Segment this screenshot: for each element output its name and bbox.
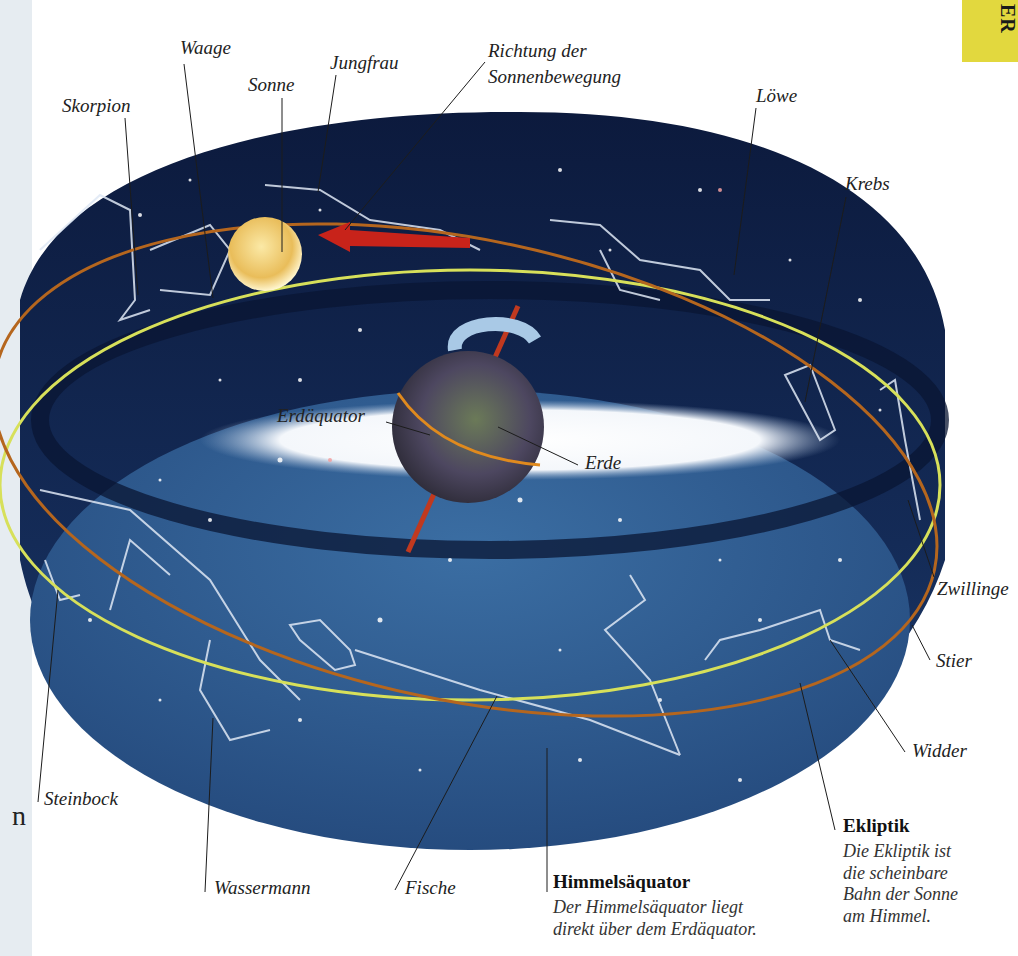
partial-text-left: n (12, 800, 26, 832)
caption-ekliptik-line2: die scheinbare (843, 863, 958, 885)
caption-ekliptik-title: Ekliptik (843, 815, 910, 837)
label-erde: Erde (585, 452, 621, 474)
label-erdaequator: Erdäquator (277, 405, 365, 427)
label-wassermann: Wassermann (214, 877, 310, 899)
caption-ekliptik-text: Die Ekliptik ist die scheinbare Bahn der… (843, 841, 958, 927)
caption-ekliptik-line3: Bahn der Sonne (843, 884, 958, 906)
label-widder: Widder (912, 740, 967, 762)
label-loewe: Löwe (756, 85, 797, 107)
label-sonne: Sonne (248, 74, 294, 96)
caption-himmelsaequator-line1: Der Himmelsäquator liegt (553, 897, 757, 919)
label-fische: Fische (405, 877, 456, 899)
caption-ekliptik-line4: am Himmel. (843, 906, 958, 928)
earth (392, 351, 544, 503)
label-stier: Stier (936, 650, 972, 672)
sun (228, 217, 302, 291)
caption-himmelsaequator-text: Der Himmelsäquator liegt direkt über dem… (553, 897, 757, 940)
label-skorpion: Skorpion (62, 95, 131, 117)
caption-himmelsaequator-title: Himmelsäquator (553, 871, 690, 893)
label-steinbock: Steinbock (44, 788, 118, 810)
caption-himmelsaequator-line2: direkt über dem Erdäquator. (553, 919, 757, 941)
caption-ekliptik-line1: Die Ekliptik ist (843, 841, 958, 863)
label-richtung-line2: Sonnenbewegung (488, 66, 621, 88)
label-waage: Waage (180, 37, 231, 59)
label-jungfrau: Jungfrau (330, 52, 399, 74)
label-krebs: Krebs (845, 173, 890, 195)
label-zwillinge: Zwillinge (937, 578, 1009, 600)
label-richtung-line1: Richtung der (488, 40, 587, 62)
celestial-sphere-diagram (0, 0, 1018, 956)
